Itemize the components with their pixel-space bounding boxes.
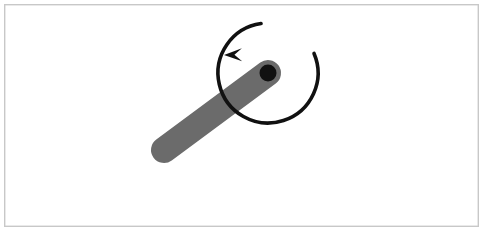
- pivot-point: [260, 65, 277, 82]
- figure-root: Rotating rod about a pivot: [0, 0, 484, 232]
- mechanics-diagram-canvas: Rotating rod about a pivot: [0, 0, 484, 232]
